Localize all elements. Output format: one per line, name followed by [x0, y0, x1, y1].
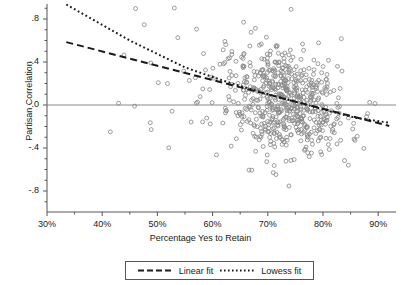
scatter-point — [234, 59, 238, 63]
scatter-point — [170, 109, 174, 113]
scatter-point — [253, 74, 257, 78]
scatter-point — [316, 62, 320, 66]
y-axis-ticks — [43, 8, 47, 202]
x-axis-ticks — [47, 212, 378, 216]
scatter-point — [230, 73, 234, 77]
scatter-point — [310, 138, 314, 142]
scatter-point — [304, 73, 308, 77]
legend-swatch-dashed — [138, 267, 174, 274]
scatter-point — [156, 81, 160, 85]
scatter-point — [291, 55, 295, 59]
scatter-point — [327, 143, 331, 147]
scatter-point — [282, 74, 286, 78]
legend-label-lowess-fit: Lowess fit — [261, 266, 301, 276]
scatter-point — [215, 153, 219, 157]
y-tick-label: -.4 — [13, 142, 39, 152]
y-tick-label: .0 — [13, 99, 39, 109]
scatter-point — [252, 78, 256, 82]
scatter-point — [205, 116, 209, 120]
scatter-point — [288, 48, 292, 52]
x-tick-label: 90% — [356, 219, 400, 229]
scatter-point — [204, 68, 208, 72]
scatter-point — [253, 26, 257, 30]
x-tick-label: 50% — [135, 219, 179, 229]
scatter-point — [265, 153, 269, 157]
scatter-point — [317, 41, 321, 45]
scatter-point — [325, 72, 329, 76]
scatter-point — [264, 35, 268, 39]
scatter-point — [301, 42, 305, 46]
scatter-point — [189, 120, 193, 124]
scatter-point — [226, 57, 230, 61]
scatter-point — [320, 71, 324, 75]
scatter-point — [272, 141, 276, 145]
y-tick-label: .4 — [13, 56, 39, 66]
x-axis-title: Percentage Yes to Retain — [0, 233, 401, 243]
scatter-point — [272, 164, 276, 168]
scatter-point — [336, 64, 340, 68]
scatter-point — [240, 120, 244, 124]
scatter-point — [253, 111, 257, 115]
scatter-point — [149, 128, 153, 132]
scatter-point — [195, 27, 199, 31]
scatter-point — [328, 90, 332, 94]
scatter-point — [247, 168, 251, 172]
scatter-point — [210, 101, 214, 105]
scatter-point — [308, 117, 312, 121]
scatter-point — [310, 142, 314, 146]
scatter-point — [320, 110, 324, 114]
scatter-point — [299, 139, 303, 143]
scatter-point — [249, 30, 253, 34]
x-tick-label: 60% — [191, 219, 235, 229]
scatter-point — [276, 51, 280, 55]
scatter-point — [287, 53, 291, 57]
scatter-point — [242, 20, 246, 24]
legend-item-linear-fit: Linear fit — [138, 266, 214, 276]
scatter-point — [325, 93, 329, 97]
legend-item-lowess-fit: Lowess fit — [220, 266, 301, 276]
scatter-point — [201, 120, 205, 124]
axes — [47, 4, 396, 212]
scatter-point — [239, 128, 243, 132]
scatter-point — [271, 171, 275, 175]
scatter-point — [108, 130, 112, 134]
scatter-chart: Partisan Correlation Percentage Yes to R… — [0, 0, 401, 285]
scatter-point — [134, 7, 138, 11]
scatter-point — [335, 142, 339, 146]
scatter-point — [265, 160, 269, 164]
scatter-point — [312, 72, 316, 76]
scatter-points — [108, 6, 377, 188]
scatter-point — [248, 44, 252, 48]
scatter-point — [221, 121, 225, 125]
x-tick-label: 70% — [246, 219, 290, 229]
scatter-point — [338, 121, 342, 125]
scatter-point — [307, 66, 311, 70]
scatter-point — [254, 149, 258, 153]
y-tick-label: .8 — [13, 13, 39, 23]
scatter-point — [324, 136, 328, 140]
scatter-point — [167, 146, 171, 150]
scatter-point — [312, 68, 316, 72]
scatter-point — [351, 127, 355, 131]
scatter-point — [187, 79, 191, 83]
scatter-point — [172, 6, 176, 10]
scatter-point — [234, 137, 238, 141]
scatter-point — [338, 87, 342, 91]
scatter-point — [310, 151, 314, 155]
scatter-point — [339, 138, 343, 142]
scatter-point — [232, 100, 236, 104]
scatter-point — [320, 80, 324, 84]
y-tick-label: -.8 — [13, 185, 39, 195]
legend-swatch-dotted — [220, 267, 256, 274]
scatter-point — [312, 58, 316, 62]
scatter-point — [252, 123, 256, 127]
scatter-point — [299, 127, 303, 131]
scatter-point — [229, 144, 233, 148]
scatter-point — [198, 95, 202, 99]
scatter-point — [211, 66, 215, 70]
scatter-point — [339, 37, 343, 41]
scatter-point — [202, 52, 206, 56]
scatter-point — [208, 122, 212, 126]
scatter-point — [289, 7, 293, 11]
scatter-point — [307, 155, 311, 159]
